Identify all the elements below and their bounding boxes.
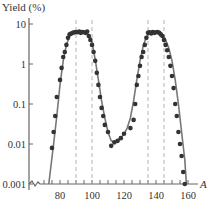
data-point [139, 55, 144, 60]
x-tick-label: 140 [148, 190, 164, 201]
fit-curve-path [49, 32, 187, 184]
yield-chart: Yield (%) 1010.10.010.00180100120140160 … [0, 0, 208, 207]
data-point [90, 43, 95, 48]
data-point [85, 29, 90, 34]
data-point [181, 170, 186, 175]
data-point [50, 146, 55, 151]
data-point [138, 64, 143, 69]
data-point [171, 86, 176, 91]
data-point [93, 59, 98, 64]
data-point [53, 114, 58, 119]
data-point [98, 95, 103, 100]
data-point [96, 83, 101, 88]
data-point [119, 136, 124, 141]
data-point [61, 55, 66, 60]
data-point [178, 142, 183, 147]
data-point [63, 50, 68, 55]
data-point [141, 50, 146, 55]
data-point [173, 102, 178, 107]
y-tick-label: 10 [16, 19, 27, 30]
data-point [183, 182, 188, 187]
data-points [50, 29, 187, 186]
data-point [106, 130, 111, 135]
data-point [176, 130, 181, 135]
x-tick-label: 120 [116, 190, 132, 201]
data-point [165, 48, 170, 53]
data-point [91, 50, 96, 55]
data-point [55, 95, 60, 100]
data-point [143, 43, 148, 48]
data-point [59, 66, 64, 71]
data-point [131, 118, 136, 123]
data-point [167, 55, 172, 60]
fit-curve [49, 32, 187, 184]
data-point [64, 43, 69, 48]
data-point [135, 83, 140, 88]
data-point [51, 130, 56, 135]
x-tick-label: 160 [180, 190, 196, 201]
data-point [144, 36, 149, 41]
data-point [128, 126, 133, 131]
y-tick-label: 0.1 [13, 99, 26, 110]
data-point [175, 114, 180, 119]
data-point [168, 64, 173, 69]
data-point [163, 43, 168, 48]
data-point [101, 114, 106, 119]
data-point [99, 106, 104, 111]
data-point [133, 102, 138, 107]
data-point [109, 144, 114, 149]
data-point [95, 71, 100, 76]
y-tick-label: 0.001 [2, 179, 26, 190]
y-tick-label: 0.01 [8, 139, 26, 150]
x-axis-label: A [199, 178, 207, 190]
data-point [122, 131, 127, 136]
data-point [88, 38, 93, 43]
y-axis-label: Yield (%) [2, 1, 45, 14]
data-point [103, 123, 108, 128]
data-point [170, 74, 175, 79]
y-tick-label: 1 [21, 59, 26, 70]
dashed-reference-lines [76, 20, 164, 184]
data-point [136, 74, 141, 79]
data-point [162, 38, 167, 43]
x-tick-label: 80 [55, 190, 66, 201]
data-point [179, 154, 184, 159]
data-point [58, 78, 63, 83]
x-axis-line [29, 181, 198, 186]
x-tick-label: 100 [84, 190, 100, 201]
